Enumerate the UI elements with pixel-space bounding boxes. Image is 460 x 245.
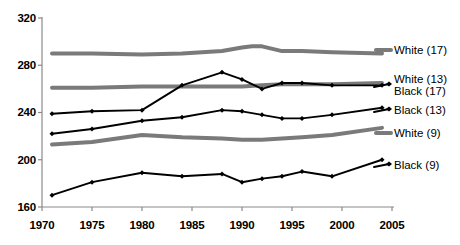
y-tick-label-160: 160 [2,201,36,213]
x-tick-label-1990: 1990 [219,219,265,231]
legend-item-white-13: White (13) [394,73,447,85]
series-white-17 [52,46,382,54]
legend-item-black-9: Black (9) [394,159,439,171]
legend-item-black-17: Black (17) [394,85,446,97]
x-tick-label-1975: 1975 [69,219,115,231]
x-tick-label-1995: 1995 [269,219,315,231]
line-chart: 320 280 240 200 160 1970 1975 1980 1985 … [0,0,460,245]
x-tick-label-1985: 1985 [169,219,215,231]
plot-area [0,0,460,245]
series-black-9 [50,157,385,197]
legend-item-white-17: White (17) [394,44,447,56]
legend-item-white-9: White (9) [394,127,441,139]
y-tick-label-200: 200 [2,154,36,166]
x-tick-label-1970: 1970 [19,219,65,231]
y-tick-label-240: 240 [2,106,36,118]
series-black-13 [50,105,385,136]
x-tick-label-2005: 2005 [369,219,415,231]
legend-item-black-13: Black (13) [394,104,446,116]
series-black-17 [50,70,385,116]
series-white-9 [52,128,382,145]
y-tick-label-320: 320 [2,12,36,24]
x-tick-label-2000: 2000 [319,219,365,231]
data-series-group [50,46,385,197]
x-tick-label-1980: 1980 [119,219,165,231]
y-tick-label-280: 280 [2,59,36,71]
